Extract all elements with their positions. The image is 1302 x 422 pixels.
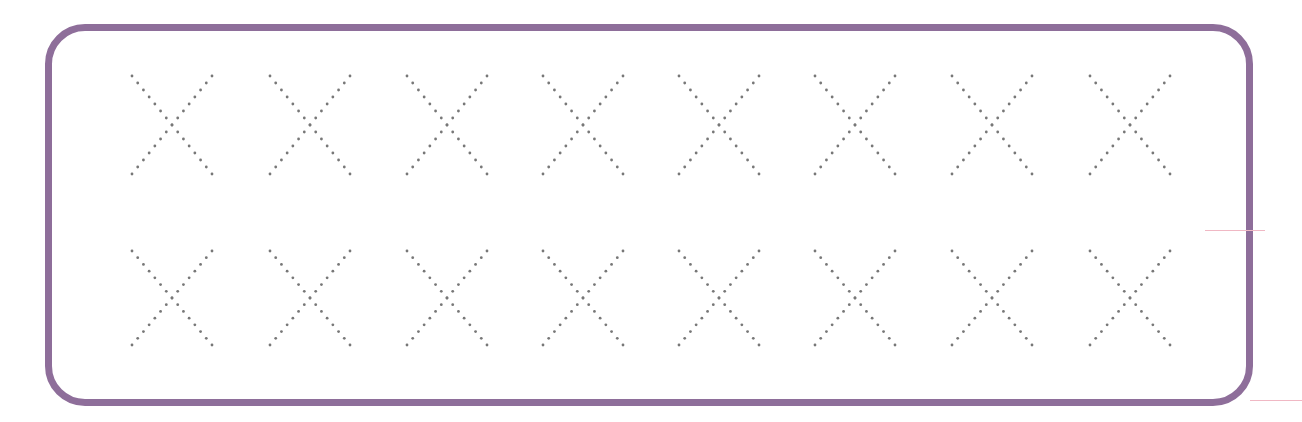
dotted-letter-x bbox=[814, 250, 897, 347]
dotted-letter-x bbox=[814, 75, 897, 176]
dotted-letter-x bbox=[1089, 250, 1172, 347]
dotted-letter-x bbox=[269, 250, 352, 347]
dotted-letter-x bbox=[1089, 75, 1172, 176]
dotted-letter-x bbox=[678, 250, 761, 347]
dotted-letter-x bbox=[131, 75, 214, 176]
dotted-letter-x bbox=[131, 250, 214, 347]
dotted-letter-x bbox=[406, 250, 489, 347]
dotted-letter-x bbox=[269, 75, 352, 176]
dotted-letter-x bbox=[542, 250, 625, 347]
dotted-letter-x bbox=[678, 75, 761, 176]
dotted-letter-x bbox=[542, 75, 625, 176]
dotted-letter-x bbox=[951, 75, 1034, 176]
dotted-letter-x bbox=[406, 75, 489, 176]
dotted-letter-x bbox=[951, 250, 1034, 347]
tracing-letters bbox=[0, 0, 1302, 422]
